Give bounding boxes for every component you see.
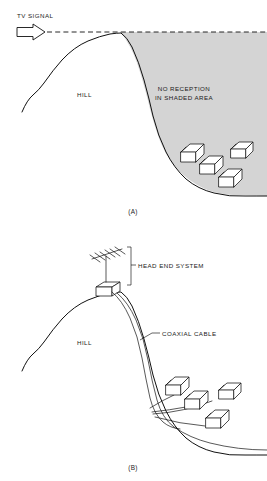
drop-line-2 (152, 407, 186, 412)
tv-signal-label: TV SIGNAL (17, 12, 53, 19)
panel-b-caption: (B) (128, 464, 137, 472)
head-end-bracket (127, 247, 131, 285)
head-end-system-label: HEAD END SYSTEM (138, 262, 204, 269)
panel-a-caption: (A) (128, 208, 137, 216)
hill-outline-b (22, 292, 267, 455)
house-b-4 (206, 410, 229, 428)
panel-a: TV SIGNAL HILL NO RECEPTION IN SHADED AR… (17, 12, 267, 216)
technical-diagram: TV SIGNAL HILL NO RECEPTION IN SHADED AR… (0, 0, 267, 481)
shaded-no-reception-area (120, 32, 267, 196)
house-b-2 (185, 391, 208, 409)
house-b-1 (166, 377, 189, 395)
no-reception-label-line2: IN SHADED AREA (155, 94, 214, 101)
coaxial-trunk-line-2 (117, 293, 267, 450)
no-reception-label-line1: NO RECEPTION (158, 85, 211, 92)
hill-label-b: HILL (77, 339, 92, 346)
head-end-equipment-box (96, 282, 120, 296)
hill-label-a: HILL (77, 91, 92, 98)
tv-signal-arrow-icon (17, 24, 45, 40)
panel-b: HEAD END SYSTEM HILL COAXIAL CABLE (22, 247, 267, 472)
yagi-antenna-icon (90, 247, 125, 262)
coaxial-trunk-line-1 (112, 292, 180, 429)
house-b-3 (219, 383, 241, 399)
coaxial-cable-label: COAXIAL CABLE (162, 330, 216, 337)
